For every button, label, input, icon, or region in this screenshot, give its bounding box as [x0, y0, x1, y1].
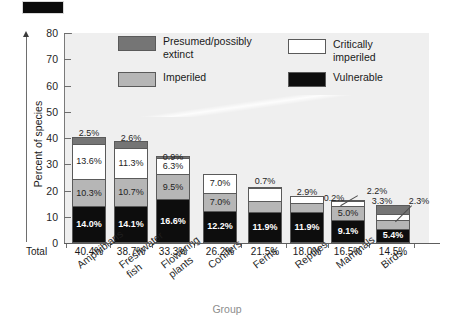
y-axis-tick-label: 30 — [18, 158, 58, 170]
bar-segment-value-outside: 2.5% — [79, 128, 100, 138]
bar-segment-vuln: 5.4% — [376, 229, 410, 243]
x-axis-label: Group — [0, 303, 454, 315]
legend-item: Imperiled — [118, 72, 206, 87]
y-axis-tick-label: 20 — [18, 185, 58, 197]
bar-segment-imper — [248, 201, 282, 212]
stacked-bar-chart: Percent of species 80706050403020100 13.… — [0, 0, 454, 315]
y-axis-tick-mark — [64, 191, 71, 192]
bar-segment-value: 5.4% — [383, 231, 404, 240]
bar-segment-value-outside: 0.2% — [324, 193, 345, 203]
y-axis-tick-mark — [64, 86, 71, 87]
y-axis-tick-mark — [64, 112, 71, 113]
bar-segment-value: 14.0% — [76, 220, 102, 229]
bar: 6.3%9.5%16.6% — [156, 156, 190, 243]
bar-segment-value: 5.0% — [338, 209, 359, 218]
bar-segment-value: 6.3% — [163, 162, 184, 171]
bar-segment-value-outside: 2.9% — [297, 187, 318, 197]
bar: 7.0%7.0%12.2% — [203, 174, 237, 243]
legend-item: Critically imperiled — [288, 39, 418, 63]
bar-segment-crit: 7.0% — [203, 174, 237, 192]
bar: 11.9% — [290, 196, 324, 243]
legend-swatch-vuln — [288, 72, 326, 87]
bar-segment-vuln: 12.2% — [203, 211, 237, 243]
bar-segment-value-outside: 2.3% — [409, 196, 430, 206]
bar-segment-value: 9.1% — [338, 227, 359, 236]
bar: 11.3%10.7%14.1% — [114, 141, 148, 243]
legend-label: Critically imperiled — [333, 38, 418, 63]
bar-segment-vuln: 11.9% — [290, 212, 324, 243]
legend-label: Presumed/possibly extinct — [163, 35, 252, 60]
y-axis-tick-mark — [64, 164, 71, 165]
bar-segment-value: 11.9% — [252, 223, 277, 232]
legend-swatch-ext — [118, 36, 156, 51]
total-row-label: Total — [26, 246, 47, 257]
y-axis-tick-mark — [64, 217, 71, 218]
bar: 11.9% — [248, 187, 282, 243]
bar-segment-value: 11.3% — [119, 159, 144, 168]
bar-segment-imper: 10.3% — [72, 179, 106, 206]
bar-segment-crit: 13.6% — [72, 144, 106, 180]
y-axis-tick-label: 50 — [18, 106, 58, 118]
bar: 13.6%10.3%14.0% — [72, 137, 106, 243]
bar-segment-imper: 7.0% — [203, 193, 237, 211]
bar-segment-value: 14.1% — [118, 220, 144, 229]
bar-segment-crit: 11.3% — [114, 148, 148, 178]
bar-segment-value: 9.5% — [163, 183, 184, 192]
bar-segment-value-outside: 0.7% — [255, 176, 276, 186]
legend-item: Vulnerable — [288, 72, 383, 87]
bar-segment-value: 7.0% — [210, 179, 231, 188]
y-axis-tick-label: 80 — [18, 27, 58, 39]
bar-segment-imper: 5.0% — [331, 206, 365, 219]
legend-label: Vulnerable — [333, 71, 383, 84]
y-axis-tick-mark — [64, 59, 71, 60]
y-axis-tick-label: 10 — [18, 211, 58, 223]
x-axis-line — [64, 243, 440, 244]
y-axis-tick-label: 70 — [18, 53, 58, 65]
bar-segment-vuln: 11.9% — [248, 212, 282, 243]
bar-segment-value: 7.0% — [210, 198, 231, 207]
bar-segment-value: 16.6% — [160, 217, 186, 226]
y-axis-tick-label: 40 — [18, 132, 58, 144]
bar-segment-value-outside: 2.2% — [367, 186, 388, 196]
bar-segment-value-outside: 2.6% — [121, 133, 142, 143]
bar-segment-value: 11.9% — [294, 223, 319, 232]
bar-segment-value: 13.6% — [76, 157, 102, 166]
legend-swatch-imper — [118, 72, 156, 87]
legend-label: Imperiled — [163, 71, 206, 84]
bar-segment-vuln: 14.0% — [72, 206, 106, 243]
y-axis-tick-label: 60 — [18, 80, 58, 92]
bar-segment-imper: 9.5% — [156, 174, 190, 199]
bar-segment-value: 10.3% — [76, 189, 102, 198]
bar-segment-value: 12.2% — [207, 222, 233, 231]
bar-segment-value-outside: 3.3% — [372, 196, 393, 206]
bar-segment-crit — [248, 188, 282, 201]
bar-segment-value: 10.7% — [118, 188, 144, 197]
bar-segment-imper — [290, 203, 324, 211]
y-axis-tick-mark — [64, 138, 71, 139]
bar: 5.0%9.1% — [331, 200, 365, 243]
legend-item: Presumed/possibly extinct — [118, 36, 252, 60]
bar-segment-imper — [376, 220, 410, 229]
bar-segment-imper: 10.7% — [114, 178, 148, 206]
bar-segment-value-outside: 0.9% — [163, 152, 184, 162]
legend-swatch-crit — [288, 39, 326, 54]
y-axis-tick-mark — [64, 33, 71, 34]
